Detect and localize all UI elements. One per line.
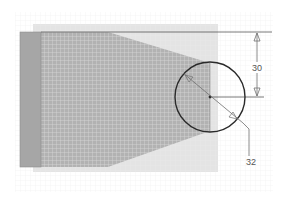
sketch-svg: 30 32 xyxy=(0,0,289,199)
side-bar[interactable] xyxy=(20,32,41,167)
dimension-30-label[interactable]: 30 xyxy=(252,63,262,73)
dimension-32-label[interactable]: 32 xyxy=(246,157,256,167)
cad-drawing-canvas[interactable]: 30 32 xyxy=(0,0,289,199)
